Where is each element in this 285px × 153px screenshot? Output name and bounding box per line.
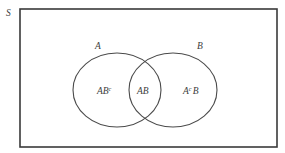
venn-diagram-canvas: S A B ABc AB AcB [0, 0, 285, 153]
set-a-label: A [94, 41, 101, 51]
region-a-only-base: AB [96, 86, 109, 96]
set-b-label: B [197, 41, 203, 51]
region-label-a-only: ABc [96, 85, 112, 96]
region-a-only-superscript: c [109, 85, 112, 92]
region-b-only-trailing: B [193, 86, 199, 96]
universal-set-label: S [6, 8, 11, 18]
venn-diagram-figure: S A B ABc AB AcB [0, 0, 285, 153]
region-label-b-only: AcB [182, 85, 199, 96]
region-label-intersection: AB [136, 86, 149, 96]
universal-set-rectangle [20, 9, 277, 147]
region-b-only-superscript: c [189, 85, 192, 92]
